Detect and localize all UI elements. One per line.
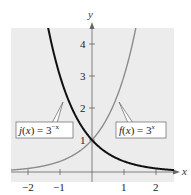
y-tick-label: 3 xyxy=(80,70,86,82)
plot-area xyxy=(11,28,174,182)
x-tick-label: −1 xyxy=(53,181,65,193)
y-axis-arrow-icon xyxy=(90,22,95,29)
y-axis-label: y xyxy=(87,8,93,20)
x-tick-label: −2 xyxy=(22,181,34,193)
f-label: f(x) = 3x xyxy=(119,123,156,137)
exponential-chart: −2 −1 1 2 1 2 3 4 x y j(x) = 3−x f(x) = … xyxy=(0,0,191,195)
x-axis-label: x xyxy=(181,165,187,177)
x-tick-label: 1 xyxy=(121,181,127,193)
y-tick-label: 4 xyxy=(80,38,86,50)
x-axis-arrow-icon xyxy=(173,170,180,175)
x-tick-label: 2 xyxy=(153,181,159,193)
y-tick-label: 2 xyxy=(80,102,86,114)
y-tick-label: 1 xyxy=(80,134,86,146)
